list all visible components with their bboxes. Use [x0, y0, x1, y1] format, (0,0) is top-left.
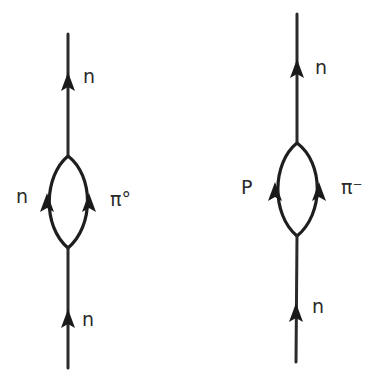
- label-loop-neutron: n: [16, 187, 28, 206]
- label-loop-pion: π⁻: [341, 178, 362, 197]
- loop-right-pion: [68, 156, 88, 248]
- label-loop-pion: π°: [110, 190, 131, 209]
- loop-right-pion: [297, 143, 317, 236]
- arrow-up-icon: [312, 182, 326, 201]
- loop-left-neutron: [49, 156, 68, 248]
- loop-left-proton: [278, 143, 297, 236]
- label-incoming-neutron: n: [312, 297, 324, 316]
- arrow-up-icon: [268, 182, 282, 201]
- incoming-neutron-line: [296, 236, 297, 362]
- label-outgoing-neutron: n: [83, 67, 95, 86]
- label-outgoing-neutron: n: [315, 58, 327, 77]
- label-incoming-neutron: n: [82, 310, 94, 329]
- arrow-up-icon: [82, 193, 96, 212]
- label-loop-proton: P: [241, 178, 252, 197]
- arrow-up-icon: [40, 193, 54, 212]
